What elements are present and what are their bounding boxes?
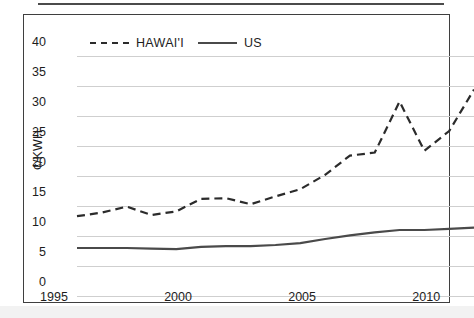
y-tick-label: 5 (16, 246, 46, 259)
y-tick-label: 15 (16, 186, 46, 199)
top-divider-rule (38, 3, 444, 5)
legend-label-hawaii: HAWAI'I (136, 36, 184, 50)
series-line-1 (77, 228, 474, 250)
chart-frame: HAWAI'I US ¢/KWH 0510152025303540 199520… (23, 14, 450, 303)
x-tick-label: 2005 (277, 291, 327, 304)
page-bottom-band (0, 306, 474, 318)
legend-item-us[interactable]: US (198, 36, 262, 50)
series-line-0 (77, 90, 474, 217)
solid-line-icon (198, 42, 237, 44)
y-tick-label: 40 (16, 36, 46, 49)
legend-item-hawaii[interactable]: HAWAI'I (90, 36, 184, 50)
figure-page: HAWAI'I US ¢/KWH 0510152025303540 199520… (0, 0, 474, 318)
dashed-line-icon (90, 42, 129, 44)
y-tick-label: 25 (16, 126, 46, 139)
y-tick-label: 0 (16, 276, 46, 289)
x-tick-label: 2010 (401, 291, 451, 304)
x-tick-label: 2000 (153, 291, 203, 304)
y-tick-label: 10 (16, 216, 46, 229)
plot-area (77, 56, 474, 296)
y-tick-label: 35 (16, 66, 46, 79)
chart-legend: HAWAI'I US (90, 36, 262, 50)
legend-label-us: US (244, 36, 262, 50)
y-tick-label: 30 (16, 96, 46, 109)
x-tick-label: 1995 (29, 291, 79, 304)
data-lines (77, 56, 474, 296)
y-tick-label: 20 (16, 156, 46, 169)
